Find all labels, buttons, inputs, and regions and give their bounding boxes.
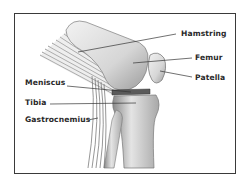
knee-illustration [0,0,247,186]
fibula-bone [104,110,122,168]
label-gastrocnemius: Gastrocnemius [25,116,90,124]
label-hamstring: Hamstring [181,30,227,38]
label-patella: Patella [195,74,225,82]
label-femur: Femur [195,54,223,62]
label-meniscus: Meniscus [25,79,65,87]
patella-bone [148,53,165,83]
label-tibia: Tibia [25,99,46,107]
